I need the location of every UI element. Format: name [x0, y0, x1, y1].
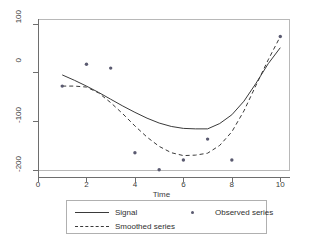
legend-label-signal: Signal [115, 208, 137, 217]
data-point-marker [61, 84, 64, 87]
legend-label-smoothed: Smoothed series [115, 222, 175, 231]
data-point-marker [206, 137, 209, 140]
dashed-line-icon [75, 226, 109, 227]
legend-item-observed: Observed series [175, 205, 273, 219]
data-point-marker [157, 168, 160, 171]
data-point-marker [109, 66, 112, 69]
chart-legend: Signal Smoothed series Observed series [66, 200, 267, 234]
data-point-marker [279, 35, 282, 38]
data-point-marker [230, 158, 233, 161]
data-point-marker [85, 63, 88, 66]
data-point-marker [182, 158, 185, 161]
series-line [62, 48, 280, 129]
chart-container: 1000-100-200 0246810 Time Signal Smoothe… [0, 0, 323, 246]
solid-line-icon [75, 212, 109, 213]
dot-marker-icon [175, 211, 209, 214]
data-point-marker [133, 151, 136, 154]
legend-item-signal: Signal [75, 205, 137, 219]
legend-item-smoothed: Smoothed series [75, 219, 175, 233]
legend-label-observed: Observed series [215, 208, 273, 217]
